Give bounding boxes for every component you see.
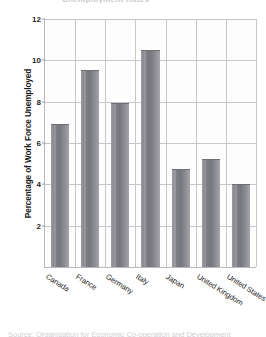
y-tick-label: 4	[37, 180, 41, 189]
y-tick-mark	[42, 143, 45, 144]
x-tick-label-france: France	[74, 272, 98, 292]
y-tick-mark	[42, 19, 45, 20]
y-tick-mark	[42, 225, 45, 226]
y-tick-mark	[42, 184, 45, 185]
x-gridline	[105, 19, 106, 267]
bar-canada[interactable]	[51, 124, 69, 267]
y-tick-label: 2	[37, 221, 41, 230]
x-gridline	[135, 19, 136, 267]
y-axis-title: Percentage of Work Force Unemployed	[24, 39, 33, 249]
bar-france[interactable]	[81, 70, 99, 267]
bar-japan[interactable]	[172, 169, 190, 267]
x-gridline	[196, 19, 197, 267]
x-gridline	[166, 19, 167, 267]
y-tick-label: 10	[32, 56, 41, 65]
chart-title-remnant: Unemployment Rates	[62, 0, 182, 3]
bar-united-states[interactable]	[232, 184, 250, 267]
x-gridline	[226, 19, 227, 267]
x-gridline	[256, 19, 257, 267]
plot-area: 24681012	[44, 19, 256, 268]
x-tick-label-canada: Canada	[44, 272, 71, 293]
x-tick-label-italy: Italy	[134, 272, 150, 287]
x-axis-tick-labels: CanadaFranceGermanyItalyJapanUnited King…	[44, 268, 256, 320]
source-note-remnant: Source: Organisation for Economic Co-ope…	[8, 330, 258, 337]
x-tick-label-japan: Japan	[165, 272, 187, 290]
bar-united-kingdom[interactable]	[202, 159, 220, 267]
y-tick-label: 12	[32, 15, 41, 24]
y-tick-label: 6	[37, 139, 41, 148]
y-tick-mark	[42, 101, 45, 102]
bar-italy[interactable]	[141, 50, 159, 267]
y-tick-label: 8	[37, 97, 41, 106]
y-gridline	[45, 19, 256, 20]
x-tick-label-germany: Germany	[104, 272, 135, 296]
bar-germany[interactable]	[111, 103, 129, 267]
y-tick-mark	[42, 60, 45, 61]
x-gridline	[75, 19, 76, 267]
